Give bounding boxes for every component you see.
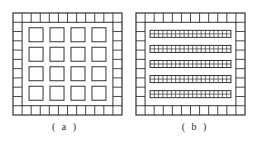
caption-a: ( a ) — [0, 121, 130, 132]
pad-square — [50, 28, 64, 42]
pad-square — [50, 86, 64, 100]
caption-b: ( b ) — [130, 121, 260, 132]
pad-square — [29, 86, 43, 100]
pad-square — [71, 67, 85, 81]
pad-square — [29, 47, 43, 61]
pad-square — [92, 28, 106, 42]
pad-square — [71, 28, 85, 42]
pad-square — [71, 86, 85, 100]
pad-square — [29, 67, 43, 81]
pad-square — [92, 67, 106, 81]
pad-square — [92, 47, 106, 61]
pad-square — [50, 67, 64, 81]
layout-diagram-b — [130, 0, 260, 141]
pad-square — [50, 47, 64, 61]
layout-diagram-a — [0, 0, 130, 141]
pad-square — [92, 86, 106, 100]
pad-square — [71, 47, 85, 61]
pad-square — [29, 28, 43, 42]
panel-a: ( a ) — [0, 0, 130, 141]
panel-b: ( b ) — [130, 0, 260, 141]
inner-frame — [22, 22, 113, 105]
